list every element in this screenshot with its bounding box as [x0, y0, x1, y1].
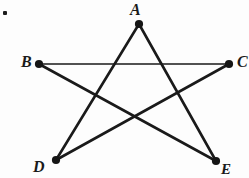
vertex-dot-C	[225, 60, 233, 68]
vertex-label-D: D	[33, 159, 45, 175]
vertex-label-E: E	[221, 161, 231, 177]
vertex-label-B: B	[21, 54, 32, 70]
edge-C-D	[56, 64, 229, 160]
pentagram-figure: A B C D E	[0, 0, 249, 178]
edge-A-D	[56, 24, 139, 160]
vertex-dot-A	[135, 20, 143, 28]
pentagram-canvas	[0, 0, 249, 178]
vertex-label-C: C	[237, 54, 248, 70]
vertex-label-A: A	[130, 2, 141, 18]
vertex-dot-D	[52, 156, 60, 164]
vertex-dot-B	[35, 60, 43, 68]
vertex-dot-E	[212, 157, 220, 165]
